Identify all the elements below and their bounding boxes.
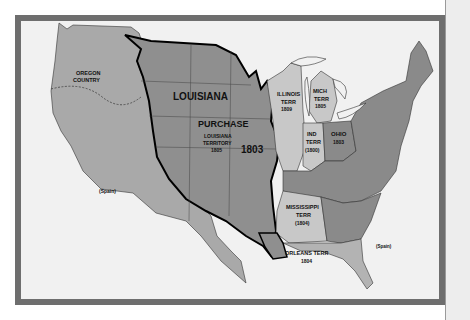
label-louisiana: LOUISIANA bbox=[173, 91, 228, 102]
label-mich-year: 1805 bbox=[315, 103, 326, 109]
label-illinois-1: ILLINOIS bbox=[277, 91, 301, 97]
side-panel-strip bbox=[445, 0, 470, 320]
label-illinois-2: TERR bbox=[281, 99, 296, 105]
label-ind-1: IND bbox=[307, 131, 317, 137]
label-ind-year: (1800) bbox=[305, 147, 320, 153]
label-orleans: ORLEANS TERR bbox=[285, 250, 328, 256]
label-lt-2: TERRITORY bbox=[203, 140, 232, 146]
spanish-florida bbox=[283, 239, 373, 289]
label-mich-2: TERR bbox=[314, 96, 329, 102]
label-ohio-year: 1803 bbox=[333, 139, 344, 145]
label-ohio: OHIO bbox=[331, 131, 347, 137]
label-mississippi-1: MISSISSIPPI bbox=[286, 204, 319, 210]
label-purchase: PURCHASE bbox=[198, 119, 249, 129]
us-map: OREGON COUNTRY LOUISIANA PURCHASE LOUISI… bbox=[21, 21, 439, 299]
label-spain-west: (Spain) bbox=[99, 188, 116, 194]
label-lt-1: LOUISIANA bbox=[204, 133, 232, 139]
label-oregon-1: OREGON bbox=[76, 70, 100, 76]
map-frame: OREGON COUNTRY LOUISIANA PURCHASE LOUISI… bbox=[15, 15, 445, 305]
label-mississippi-2: TERR bbox=[296, 212, 311, 218]
label-ind-2: TERR bbox=[306, 139, 321, 145]
label-lt-year: 1805 bbox=[211, 147, 222, 153]
label-illinois-year: 1809 bbox=[281, 106, 292, 112]
label-spain-florida: (Spain) bbox=[376, 244, 392, 249]
label-orleans-year: 1804 bbox=[301, 258, 312, 264]
label-mich-1: MICH bbox=[313, 88, 327, 94]
label-mississippi-year: (1804) bbox=[295, 220, 310, 226]
label-1803: 1803 bbox=[241, 144, 264, 155]
label-oregon-2: COUNTRY bbox=[73, 77, 100, 83]
